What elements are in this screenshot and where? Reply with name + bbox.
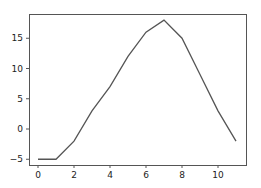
y-tick-label: 10 bbox=[12, 64, 24, 74]
y-tick-label: −5 bbox=[10, 154, 23, 164]
x-tick-label: 0 bbox=[35, 170, 41, 180]
data-line bbox=[38, 20, 236, 159]
plot-frame bbox=[30, 15, 247, 166]
y-tick-label: 15 bbox=[12, 33, 23, 43]
x-tick-label: 2 bbox=[71, 170, 77, 180]
axis-ticks: 0246810−5051015 bbox=[10, 33, 224, 180]
y-tick-label: 0 bbox=[17, 124, 23, 134]
x-tick-label: 4 bbox=[107, 170, 113, 180]
line-chart: 0246810−5051015 bbox=[0, 0, 261, 188]
y-tick-label: 5 bbox=[17, 94, 23, 104]
x-tick-label: 8 bbox=[179, 170, 185, 180]
x-tick-label: 6 bbox=[143, 170, 149, 180]
x-tick-label: 10 bbox=[212, 170, 224, 180]
